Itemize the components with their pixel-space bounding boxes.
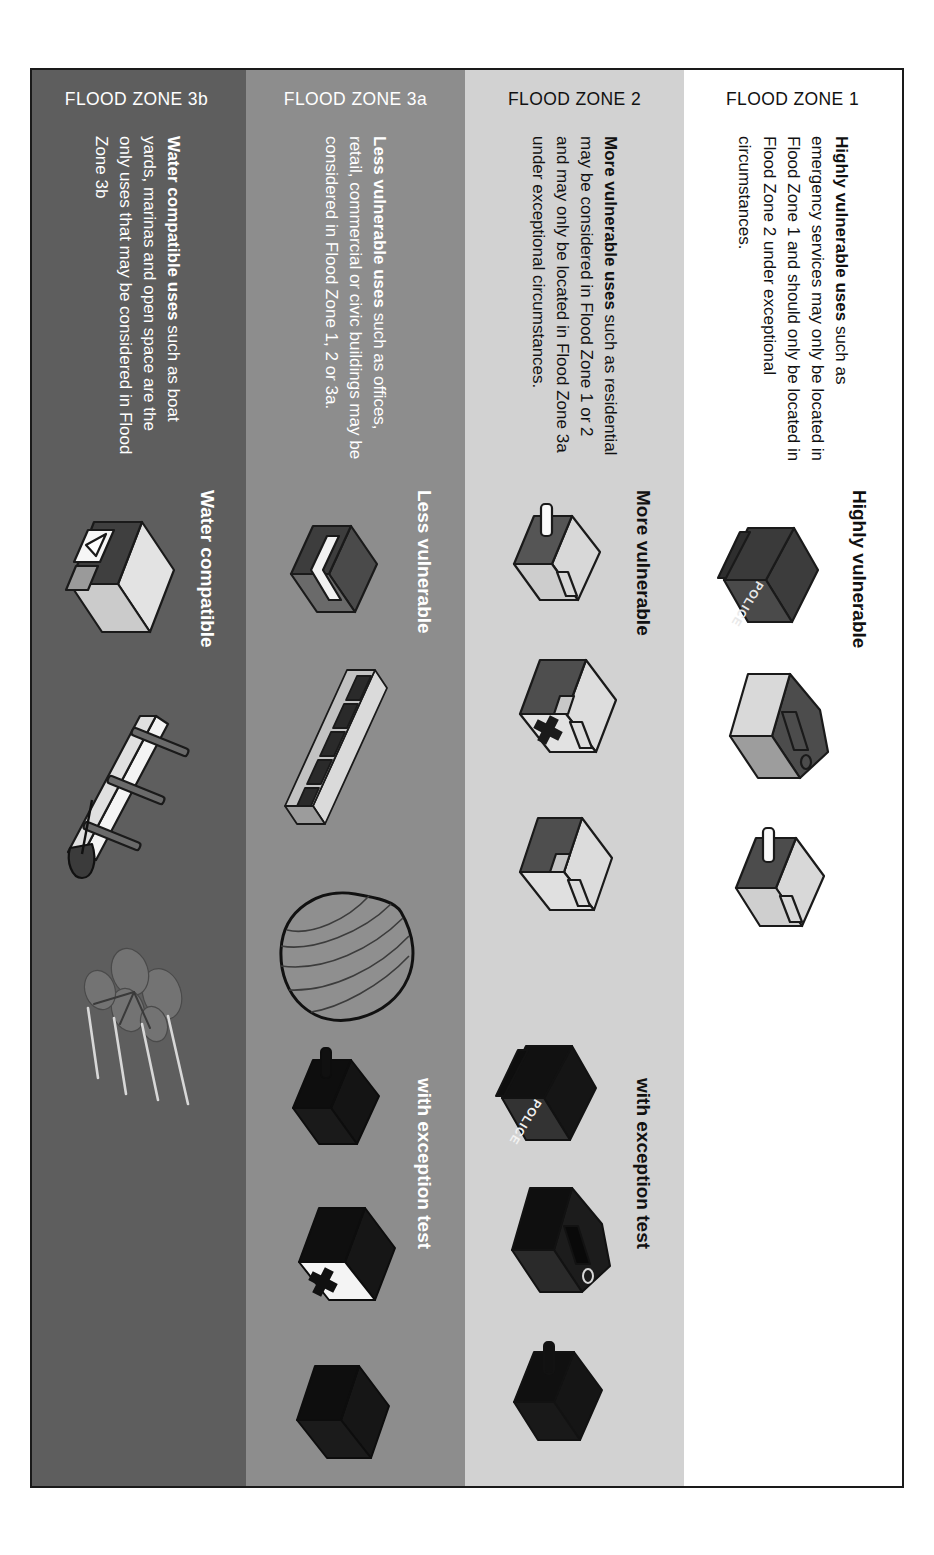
boatyard-building-icon <box>44 504 186 680</box>
zone-description-lead-1: Highly vulnerable uses <box>832 136 851 321</box>
icon-row-1: POLICE <box>684 480 902 1488</box>
flood-zone-band-3b: FLOOD ZONE 3b Water compatible uses such… <box>30 70 246 1488</box>
jetty-with-boat-icon <box>40 694 196 894</box>
icon-row-2: POLICE <box>465 480 684 1488</box>
flood-zone-band-3a: FLOOD ZONE 3a Less vulnerable uses such … <box>246 70 465 1488</box>
care-home-silhouette-icon <box>492 1180 624 1312</box>
house-building-icon <box>494 502 612 624</box>
figure-frame: FLOOD ZONE 1 Highly vulnerable uses such… <box>30 68 904 1488</box>
stadium-dome-icon <box>263 874 431 1042</box>
hospital-building-icon <box>494 644 630 784</box>
figure-canvas: FLOOD ZONE 1 Highly vulnerable uses such… <box>0 0 934 1555</box>
figure-caption <box>916 1491 932 1551</box>
zone-label-2: FLOOD ZONE 2 <box>465 74 684 126</box>
zone-label-3a: FLOOD ZONE 3a <box>246 74 465 126</box>
zone-description-1: Highly vulnerable uses such as emergency… <box>733 136 854 466</box>
emergency-building-silhouette-icon <box>494 1340 614 1466</box>
hospital-silhouette-icon <box>273 1192 409 1332</box>
zone-label-1: FLOOD ZONE 1 <box>684 74 902 126</box>
care-home-building-icon <box>710 666 842 798</box>
school-building-icon <box>496 804 628 944</box>
house-silhouette-icon <box>273 1046 391 1168</box>
office-building-icon <box>275 514 387 632</box>
zone-label-3b: FLOOD ZONE 3b <box>30 74 246 126</box>
zone-description-lead-3a: Less vulnerable uses <box>371 136 390 308</box>
flood-zone-band-2: FLOOD ZONE 2 More vulnerable uses such a… <box>465 70 684 1488</box>
rotated-figure-stage: FLOOD ZONE 1 Highly vulnerable uses such… <box>30 68 904 1488</box>
zone-description-3a: Less vulnerable uses such as offices, re… <box>319 136 391 466</box>
icon-row-3b <box>30 480 246 1488</box>
police-station-building-icon: POLICE <box>710 518 828 636</box>
flood-zone-band-1: FLOOD ZONE 1 Highly vulnerable uses such… <box>684 70 902 1488</box>
police-station-silhouette-icon: POLICE <box>488 1036 606 1154</box>
icon-row-3a <box>246 480 465 1488</box>
zone-description-3b: Water compatible uses such as boat yards… <box>89 136 186 466</box>
school-silhouette-icon <box>277 1352 405 1486</box>
tree-open-space-icon <box>44 932 212 1112</box>
zone-description-2: More vulnerable uses such as residential… <box>526 136 623 466</box>
fire-station-building-icon <box>712 826 836 956</box>
zone-description-lead-3b: Water compatible uses <box>164 136 183 321</box>
zone-description-lead-2: More vulnerable uses <box>602 136 621 310</box>
terrace-housing-icon <box>265 656 421 852</box>
